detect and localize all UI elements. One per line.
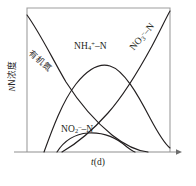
x-axis xyxy=(14,149,182,155)
y-axis-label: NN浓度 xyxy=(8,46,17,106)
x-axis-label: t(d) xyxy=(0,158,196,168)
y-axis-unit: N xyxy=(7,86,17,92)
curve-label-nh4-n: NH4+–N xyxy=(74,41,107,52)
y-axis-label-text: N浓度 xyxy=(7,61,17,86)
curve-label-nh4-n-suffix: –N xyxy=(95,41,107,51)
curve-label-no2-n-prefix: NO xyxy=(61,124,75,134)
curve-nh4-n xyxy=(44,65,170,152)
curve-label-nh4-n-prefix: NH xyxy=(74,41,88,51)
nitrogen-transformation-figure: NN浓度 t(d) 有机氮 NH4+–N NO3––N NO2––N xyxy=(0,0,196,186)
x-axis-arrow-icon xyxy=(176,149,182,155)
curve-label-no2-n-suffix: –N xyxy=(82,124,94,134)
curve-label-no2-n: NO2––N xyxy=(61,124,93,135)
x-axis-unit: (d) xyxy=(94,157,105,167)
